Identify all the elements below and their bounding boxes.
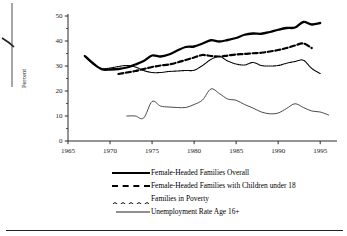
series-line — [85, 22, 320, 70]
legend-item[interactable]: Families in Poverty — [112, 192, 347, 205]
tick-label: 10 — [56, 112, 64, 120]
axes: 010203040501965197019751980198519901995P… — [20, 12, 337, 154]
legend-item[interactable]: Unemployment Rate Age 16+ — [112, 205, 347, 218]
tick-label: 1990 — [271, 147, 286, 155]
tick-label: 40 — [56, 37, 64, 45]
tick-label: 20 — [56, 87, 64, 95]
legend-label: Unemployment Rate Age 16+ — [151, 207, 240, 216]
y-axis-label: Percent — [20, 69, 27, 88]
legend-item[interactable]: Female-Headed Families Overall — [112, 166, 347, 179]
legend-item[interactable]: Female-Headed Families with Children und… — [112, 179, 347, 192]
line-dotted-icon — [112, 194, 150, 204]
data-series — [85, 22, 329, 119]
chart-legend: Female-Headed Families Overall Female-He… — [112, 166, 347, 218]
tick-label: 0 — [59, 137, 63, 145]
chart-figure: 010203040501965197019751980198519901995P… — [0, 0, 347, 236]
tick-label: 1995 — [313, 147, 328, 155]
tick-label: 1970 — [103, 147, 118, 155]
tick-label: 50 — [56, 12, 64, 20]
tick-label: 1985 — [229, 147, 244, 155]
line-dashed-icon — [112, 181, 150, 191]
tick-label: 1965 — [61, 147, 76, 155]
line-solid-thin-icon — [112, 207, 150, 217]
tick-label: 1980 — [187, 147, 202, 155]
legend-label: Families in Poverty — [151, 194, 209, 203]
series-line — [127, 89, 329, 119]
tick-label: 30 — [56, 62, 64, 70]
legend-label: Female-Headed Families with Children und… — [151, 181, 296, 190]
tick-label: 1975 — [145, 147, 160, 155]
series-line — [85, 56, 320, 73]
legend-label: Female-Headed Families Overall — [151, 168, 249, 177]
page-divider — [6, 230, 343, 231]
line-solid-thick-icon — [112, 168, 150, 178]
